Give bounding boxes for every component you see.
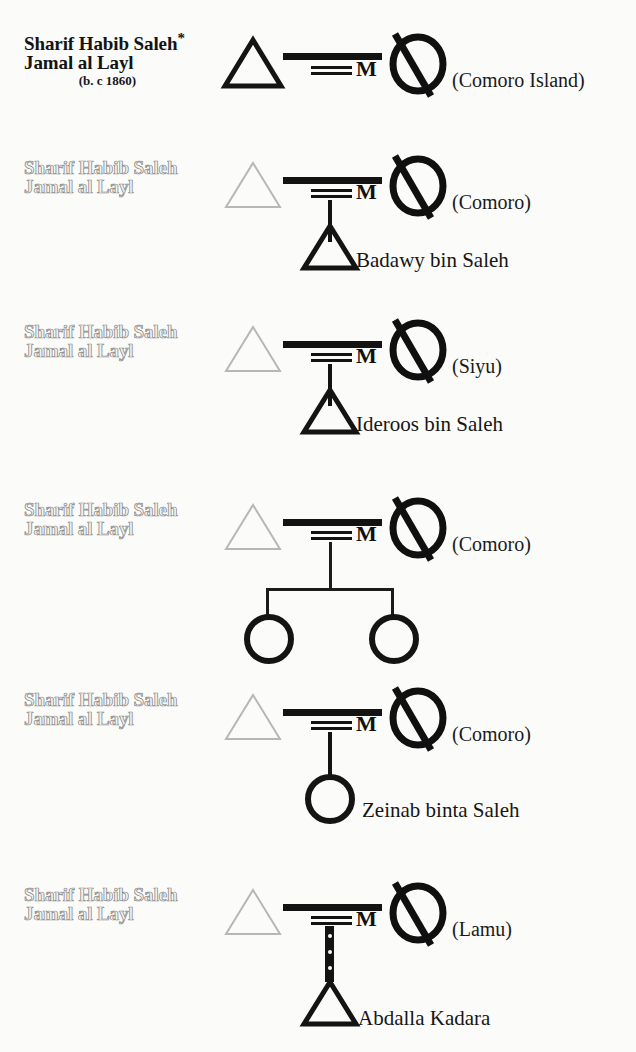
child-male-triangle-2 [300,222,360,272]
child-male-triangle-3 [300,386,360,436]
child-female-circle-4b [367,612,421,666]
child-male-triangle-6 [300,978,360,1028]
dotted-descent-line-6 [325,926,334,982]
wife-place-6: (Lamu) [452,919,512,939]
father-name-block-3: Sharif Habib Saleh Jamal al Layl [24,322,177,361]
father-name-block-5: Sharif Habib Saleh Jamal al Layl [24,690,177,729]
pedigree-chart: Sharif Habib Saleh* Jamal al Layl (b. c … [0,0,636,1052]
descent-line-5 [328,732,332,776]
marriage-label-6: M [356,908,377,930]
marriage-equals-1 [311,66,352,78]
male-triangle-father-6 [222,887,284,937]
child-name-5: Zeinab binta Saleh [362,800,519,821]
marriage-label-4: M [356,523,377,545]
marriage-label-3: M [356,345,377,367]
wife-place-4: (Comoro) [452,534,531,554]
father-name-line2: Jamal al Layl [24,53,185,72]
father-name-block-1: Sharif Habib Saleh* Jamal al Layl (b. c … [24,34,185,87]
father-name-line2: Jamal al Layl [24,709,177,728]
descent-stem-4 [329,542,332,590]
male-triangle-father-3 [222,324,284,374]
father-name-block-4: Sharif Habib Saleh Jamal al Layl [24,500,177,539]
father-name-block-2: Sharif Habib Saleh Jamal al Layl [24,158,177,197]
deceased-female-circle-3 [387,314,449,386]
male-triangle-father-2 [222,160,284,210]
child-female-circle-4a [242,612,296,666]
deceased-female-circle-1 [387,28,449,100]
marriage-label-1: M [356,58,377,80]
wife-place-5: (Comoro) [452,724,531,744]
deceased-female-circle-4 [387,492,449,564]
father-name-line1: Sharif Habib Saleh [24,500,177,519]
father-name-line1: Sharif Habib Saleh [24,690,177,709]
father-name-line2: Jamal al Layl [24,519,177,538]
wife-place-2: (Comoro) [452,192,531,212]
asterisk-marker: * [177,30,184,46]
father-name-line1: Sharif Habib Saleh [24,885,177,904]
father-name-line1: Sharif Habib Saleh [24,322,177,341]
father-name-line2: Jamal al Layl [24,177,177,196]
marriage-label-2: M [356,181,377,203]
male-triangle-father-5 [222,692,284,742]
child-name-2: Badawy bin Saleh [356,250,509,271]
marriage-label-5: M [356,713,377,735]
father-name-line2: Jamal al Layl [24,341,177,360]
father-birth-year: (b. c 1860) [24,74,185,87]
sibship-bar-4 [266,588,394,591]
father-name-line1: Sharif Habib Saleh* [24,34,185,53]
deceased-female-circle-6 [387,877,449,949]
father-name-block-6: Sharif Habib Saleh Jamal al Layl [24,885,177,924]
father-name-line1: Sharif Habib Saleh [24,158,177,177]
child-name-3: Ideroos bin Saleh [356,414,503,435]
wife-place-1: (Comoro Island) [452,70,585,90]
male-triangle-father-4 [222,502,284,552]
deceased-female-circle-5 [387,682,449,754]
wife-place-3: (Siyu) [452,356,502,376]
deceased-female-circle-2 [387,150,449,222]
male-triangle-father-1 [222,37,284,89]
child-name-6: Abdalla Kadara [358,1008,490,1029]
father-name-line2: Jamal al Layl [24,904,177,923]
child-female-circle-5 [303,772,357,826]
